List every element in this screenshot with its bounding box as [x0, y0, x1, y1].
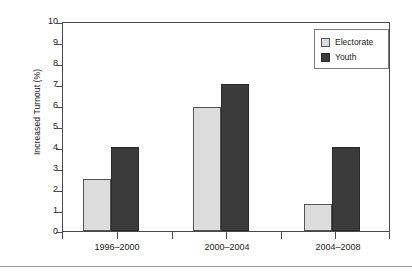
- x-tick-mark: [335, 232, 336, 239]
- y-tick-mark: [56, 128, 63, 129]
- bar-youth-2004-2008: [332, 147, 360, 231]
- y-tick-mark: [56, 107, 63, 108]
- bar-electorate-2000-2004: [193, 107, 221, 231]
- y-tick-label: 9: [40, 38, 58, 47]
- legend-label-youth: Youth: [335, 53, 356, 62]
- bar-chart-figure: Increased Turnout (%) 10 9 8 7 6 5 4 3 2…: [0, 0, 412, 278]
- bottom-divider: [0, 266, 412, 267]
- x-tick-label-2004-2008: 2004–2008: [293, 242, 383, 253]
- x-tick-mark: [117, 232, 118, 239]
- y-tick-label: 2: [40, 185, 58, 194]
- legend-item-electorate: Electorate: [321, 35, 388, 50]
- y-tick-label: 1: [40, 206, 58, 215]
- y-tick-label: 6: [40, 101, 58, 110]
- y-tick-mark: [56, 149, 63, 150]
- bar-youth-1996-2000: [111, 147, 139, 231]
- x-tick-label-1996-2000: 1996–2000: [72, 242, 162, 253]
- y-tick-label: 8: [40, 59, 58, 68]
- x-tick-mark: [226, 232, 227, 239]
- y-tick-label: 3: [40, 164, 58, 173]
- electorate-swatch-icon: [321, 38, 330, 47]
- y-tick-mark: [56, 212, 63, 213]
- y-tick-mark: [56, 170, 63, 171]
- y-tick-mark: [56, 86, 63, 87]
- y-tick-label: 4: [40, 143, 58, 152]
- y-tick-mark: [56, 44, 63, 45]
- x-tick-label-2000-2004: 2000–2004: [182, 242, 272, 253]
- y-tick-label: 7: [40, 80, 58, 89]
- y-tick-mark: [56, 191, 63, 192]
- youth-swatch-icon: [321, 53, 330, 62]
- x-tick-mark: [62, 232, 63, 239]
- bar-electorate-2004-2008: [304, 204, 332, 231]
- y-tick-mark: [56, 23, 63, 24]
- chart-legend: Electorate Youth: [314, 29, 389, 69]
- y-tick-label: 10: [40, 17, 58, 26]
- y-tick-label: 5: [40, 122, 58, 131]
- bar-youth-2000-2004: [221, 84, 249, 231]
- x-tick-mark: [172, 232, 173, 239]
- plot-area: Electorate Youth: [62, 22, 390, 232]
- legend-item-youth: Youth: [321, 50, 388, 65]
- bar-electorate-1996-2000: [83, 179, 111, 232]
- legend-label-electorate: Electorate: [335, 38, 373, 47]
- y-axis-tick-labels: 10 9 8 7 6 5 4 3 2 1 0: [38, 0, 58, 278]
- x-tick-mark: [281, 232, 282, 239]
- x-tick-mark: [389, 232, 390, 239]
- y-tick-mark: [56, 65, 63, 66]
